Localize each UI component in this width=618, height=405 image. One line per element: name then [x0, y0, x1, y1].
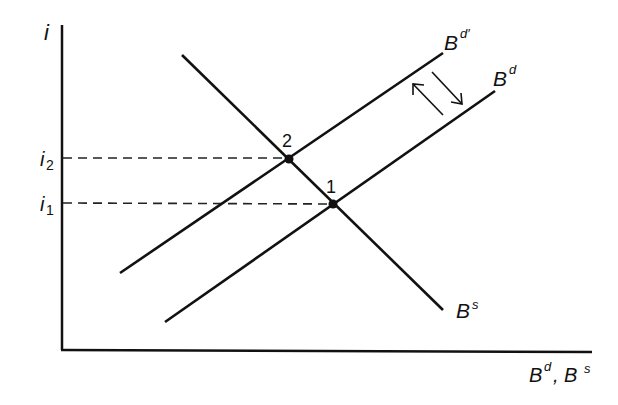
svg-text:B: B — [444, 31, 458, 54]
demand-label: B d — [493, 62, 517, 90]
svg-text:d: d — [544, 359, 552, 374]
svg-text:B: B — [529, 364, 542, 386]
x-axis — [61, 350, 592, 352]
svg-text:d′: d′ — [460, 26, 470, 41]
svg-text:d: d — [509, 62, 517, 77]
svg-text:B: B — [493, 67, 507, 90]
supply-label: B s — [456, 297, 479, 322]
svg-text:1: 1 — [46, 202, 54, 218]
y-tick-i2: i 2 — [40, 148, 54, 173]
shift-arrows — [413, 72, 462, 115]
i1-dashed-guide — [63, 203, 333, 204]
svg-text:2: 2 — [46, 157, 54, 173]
point-2-label: 2 — [282, 131, 292, 151]
svg-text:s: s — [584, 361, 591, 376]
svg-text:i: i — [40, 148, 45, 170]
x-axis-label: B d , B s — [529, 359, 591, 386]
equilibrium-point-1 — [329, 200, 338, 209]
point-1-label: 1 — [326, 177, 336, 197]
bond-market-diagram: i i 2 i 1 2 1 B d′ B d B s B d — [0, 0, 618, 405]
svg-text:s: s — [472, 297, 479, 312]
y-axis-label: i — [44, 20, 50, 45]
svg-text:i: i — [40, 193, 45, 215]
svg-text:B: B — [456, 299, 470, 322]
svg-text:, B: , B — [553, 364, 577, 386]
equilibrium-point-2 — [285, 155, 294, 164]
y-tick-i1: i 1 — [40, 193, 54, 218]
demand-shifted-label: B d′ — [444, 26, 470, 54]
supply-curve — [182, 55, 443, 310]
